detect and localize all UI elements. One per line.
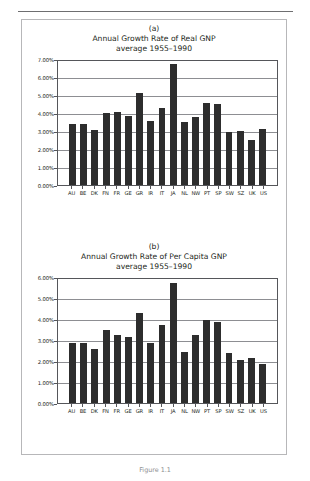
x-tick-mark [252, 404, 253, 407]
x-tick-cell [168, 186, 179, 189]
x-tick-label: GR [134, 190, 145, 196]
bar-cell [201, 61, 212, 185]
bar-cell [179, 61, 190, 185]
y-tick-label: 7.00% [38, 57, 54, 63]
x-tick-cell [213, 404, 224, 407]
x-tick-cell [258, 404, 269, 407]
bar-cell [89, 279, 100, 403]
x-tick-cell [156, 186, 167, 189]
x-tick-mark [207, 404, 208, 407]
bar-cell [145, 279, 156, 403]
chart-b-panel-label: (b) [22, 242, 286, 252]
chart-b-title: Annual Growth Rate of Per Capita GNP [22, 252, 286, 262]
x-tick-label: AU [66, 408, 77, 414]
x-tick-label: FR [111, 190, 122, 196]
x-tick-cell [247, 186, 258, 189]
y-tick-label: 2.00% [38, 359, 54, 365]
x-tick-mark [252, 186, 253, 189]
x-tick-cell [190, 186, 201, 189]
x-tick-cell [66, 186, 77, 189]
chart-b-bars [58, 279, 277, 403]
x-tick-mark [150, 404, 151, 407]
chart-b-plot-frame [57, 278, 278, 404]
x-tick-mark [82, 186, 83, 189]
bar-cell [67, 279, 78, 403]
chart-b-x-axis: AUBEDKFNFRGEGRIRITJANLNWPTSPSWSZUKUS [57, 404, 278, 422]
x-tick-label: SW [224, 190, 235, 196]
bar-cell [246, 61, 257, 185]
y-tick-label: 4.00% [38, 317, 54, 323]
bar-cell [78, 279, 89, 403]
x-tick-label: IR [145, 408, 156, 414]
x-tick-cell [179, 404, 190, 407]
bar [170, 283, 177, 404]
x-tick-mark [195, 404, 196, 407]
bar-cell [223, 61, 234, 185]
x-tick-label: SZ [235, 408, 246, 414]
x-tick-cell [201, 404, 212, 407]
x-tick-cell [179, 186, 190, 189]
chart-a-plot-area: 0.00%1.00%2.00%3.00%4.00%5.00%6.00%7.00%… [22, 60, 286, 206]
bar-cell [123, 61, 134, 185]
bar-cell [257, 279, 268, 403]
x-tick-cell [235, 404, 246, 407]
x-tick-mark [173, 404, 174, 407]
bar-cell [201, 279, 212, 403]
x-tick-mark [195, 186, 196, 189]
x-tick-label: US [258, 190, 269, 196]
bar [237, 360, 244, 403]
x-tick-mark [173, 186, 174, 189]
x-tick-mark [94, 186, 95, 189]
x-tick-mark [263, 186, 264, 189]
figure-page: (a) Annual Growth Rate of Real GNP avera… [0, 0, 310, 481]
x-tick-cell [77, 186, 88, 189]
x-tick-label: PT [201, 408, 212, 414]
chart-a-subtitle: average 1955–1990 [22, 44, 286, 54]
bar [147, 121, 154, 185]
x-tick-cell [145, 404, 156, 407]
x-tick-label: NW [190, 190, 201, 196]
x-tick-mark [116, 186, 117, 189]
x-tick-label: SW [224, 408, 235, 414]
bar-cell [101, 61, 112, 185]
x-tick-cell [89, 186, 100, 189]
x-tick-label: SZ [235, 190, 246, 196]
x-tick-cell [213, 186, 224, 189]
x-tick-label: IR [145, 190, 156, 196]
bar-cell [134, 279, 145, 403]
y-tick-label: 5.00% [38, 296, 54, 302]
x-tick-label: FR [111, 408, 122, 414]
bar-cell [112, 279, 123, 403]
bar [114, 112, 121, 185]
x-tick-label: SP [213, 408, 224, 414]
x-tick-label: JA [168, 408, 179, 414]
bar [203, 320, 210, 403]
x-tick-mark [218, 186, 219, 189]
bar [226, 132, 233, 185]
chart-a-x-labels: AUBEDKFNFRGEGRIRITJANLNWPTSPSWSZUKUS [57, 190, 278, 196]
y-tick-label: 6.00% [38, 75, 54, 81]
x-tick-cell [145, 186, 156, 189]
x-tick-cell [258, 186, 269, 189]
bar-cell [101, 279, 112, 403]
x-tick-mark [207, 186, 208, 189]
x-tick-mark [128, 186, 129, 189]
x-tick-cell [156, 404, 167, 407]
x-tick-mark [184, 404, 185, 407]
bar [69, 124, 76, 185]
x-tick-label: US [258, 408, 269, 414]
x-tick-label: DK [89, 190, 100, 196]
x-tick-mark [229, 186, 230, 189]
x-tick-mark [71, 404, 72, 407]
x-tick-cell [224, 186, 235, 189]
x-tick-label: NL [179, 190, 190, 196]
x-tick-label: JA [168, 190, 179, 196]
bar [248, 358, 255, 403]
x-tick-cell [134, 404, 145, 407]
x-tick-label: IT [156, 408, 167, 414]
y-tick-label: 0.00% [38, 401, 54, 407]
x-tick-cell [100, 186, 111, 189]
chart-a-titles: (a) Annual Growth Rate of Real GNP avera… [22, 24, 286, 54]
x-tick-label: DK [89, 408, 100, 414]
x-tick-label: UK [247, 190, 258, 196]
